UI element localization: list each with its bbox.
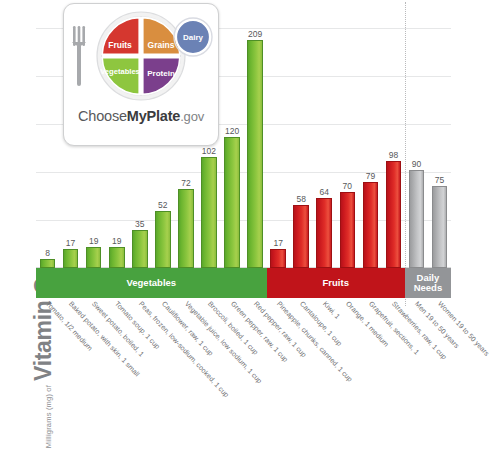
wordmark-choose: Choose [78, 108, 127, 124]
segment-label-vegetables: Vegetables [100, 67, 140, 76]
bar: 17 [63, 249, 79, 268]
bar: 79 [363, 182, 379, 268]
bar-value-label: 17 [273, 238, 282, 248]
bar: 58 [293, 205, 309, 268]
bar-value-label: 8 [45, 248, 50, 258]
bar-cell: 79 [359, 28, 382, 268]
bar: 102 [201, 157, 217, 268]
wordmark-gov: .gov [180, 109, 204, 124]
bar-value-label: 19 [112, 236, 121, 246]
bar-value-label: 72 [181, 178, 190, 188]
bar: 19 [86, 247, 102, 268]
segment-label-protein: Protein [147, 69, 175, 78]
bar: 8 [40, 259, 56, 268]
segment-label-dairy: Dairy [183, 33, 204, 42]
bar-value-label: 102 [202, 146, 216, 156]
category-bands: VegetablesFruitsDaily Needs [36, 268, 451, 298]
bar-value-label: 19 [89, 236, 98, 246]
bar-cell: 75 [428, 28, 451, 268]
bar-cell: 17 [267, 28, 290, 268]
bar-cell: 58 [290, 28, 313, 268]
fork-icon [72, 26, 86, 86]
bar-value-label: 52 [158, 200, 167, 210]
myplate-plate-graphic: Fruits Grains Vegetables Protein Dairy [64, 4, 218, 109]
x-tick-label: Orange, 1 medium [345, 300, 390, 348]
bar: 72 [178, 189, 194, 268]
bar-cell: 8 [36, 28, 59, 268]
bar-value-label: 17 [66, 238, 75, 248]
bar: 52 [155, 211, 171, 268]
bar: 17 [270, 249, 286, 268]
bar: 35 [132, 230, 148, 268]
bar-value-label: 75 [435, 175, 444, 185]
segment-label-fruits: Fruits [108, 40, 132, 50]
bar-value-label: 70 [343, 181, 352, 191]
bar-cell: 209 [244, 28, 267, 268]
bar-cell: 120 [221, 28, 244, 268]
bar-cell: 70 [336, 28, 359, 268]
bar-value-label: 64 [320, 187, 329, 197]
bar-value-label: 90 [412, 159, 421, 169]
x-tick-label: Kiwi, 1 [322, 300, 341, 320]
bar: 120 [224, 137, 240, 268]
bar: 64 [316, 198, 332, 268]
bar-value-label: 79 [366, 171, 375, 181]
bar-cell: 98 [382, 28, 405, 268]
bar: 19 [109, 247, 125, 268]
wordmark-myplate: MyPlate [127, 108, 180, 124]
bar-value-label: 98 [389, 150, 398, 160]
bar: 90 [409, 170, 425, 268]
category-band-daily-needs: Daily Needs [405, 268, 451, 298]
x-tick-label: Men 19 to 50 years [414, 300, 461, 349]
bar-value-label: 120 [225, 126, 239, 136]
myplate-wordmark: ChooseMyPlate.gov [64, 108, 218, 124]
segment-label-grains: Grains [148, 40, 175, 50]
bar: 209 [247, 40, 263, 268]
bar: 98 [386, 161, 402, 268]
x-axis-labels: Tomato, 1/2 mediumBaked potato, with ski… [36, 300, 451, 448]
myplate-logo: Fruits Grains Vegetables Protein Dairy C… [63, 3, 219, 146]
x-tick-label: Cantaloupe, 1 cup [299, 300, 343, 347]
bar: 70 [340, 192, 356, 268]
bar-cell: 64 [313, 28, 336, 268]
bar-cell: 90 [405, 28, 428, 268]
bar-value-label: 209 [248, 29, 262, 39]
myplate-svg: Fruits Grains Vegetables Protein Dairy [64, 4, 218, 109]
bar-value-label: 35 [135, 219, 144, 229]
category-band-fruits: Fruits [267, 268, 405, 298]
bar-value-label: 58 [296, 194, 305, 204]
category-band-vegetables: Vegetables [36, 268, 267, 298]
y-axis-title: Milligrams (mg) of Vitamin C [0, 28, 34, 278]
bar: 75 [432, 186, 448, 268]
x-tick-label: Tomato soup, 1 cup [114, 300, 161, 350]
